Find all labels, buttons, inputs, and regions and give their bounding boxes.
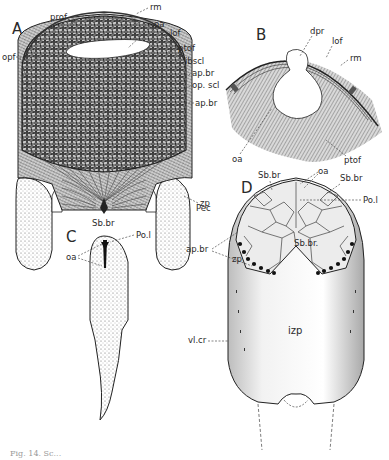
panel-letter-c: C <box>66 228 76 246</box>
label-vl-cr: vl.cr <box>188 335 207 345</box>
oral-cavity-b <box>273 49 322 118</box>
label-po-l-c: Po.l <box>136 230 151 240</box>
label-prof: prof <box>50 12 68 22</box>
label-dpr: dpr <box>310 26 325 36</box>
panel-c: C Po.l oa <box>66 228 151 420</box>
label-rm-a: rm <box>150 2 162 12</box>
pectoral-fin-left <box>16 178 52 270</box>
label-ap-br-d: ap.br <box>186 244 209 254</box>
label-sb-br-right-d: Sb.br <box>340 173 363 183</box>
panel-letter-d: D <box>241 179 253 197</box>
label-ap-br-1: ap.br <box>192 68 215 78</box>
head-shield-a <box>22 16 186 172</box>
label-zp-d: zp <box>232 254 242 264</box>
label-sb-br-center-d: Sb.br. <box>294 238 318 248</box>
panel-letter-b: B <box>256 26 266 44</box>
label-lof-a: lof <box>170 28 182 38</box>
panel-b: B dpr lof rm oa ptof <box>226 26 382 165</box>
label-oa-d: oa <box>318 166 328 176</box>
label-opf: opf <box>2 52 17 62</box>
panel-a: A prof rm oa lof ptof ibscl ap.br op. sc… <box>2 2 219 270</box>
label-sb-br-left-d: Sb.br <box>258 170 281 180</box>
label-po-l-d: Po.l <box>363 195 378 205</box>
label-pec: Pec <box>196 203 211 213</box>
label-rm-b: rm <box>350 53 362 63</box>
label-ptof-a: ptof <box>178 43 196 53</box>
pectoral-fin-right <box>156 178 190 270</box>
label-op-scl: op. scl <box>192 80 219 90</box>
label-lof-b: lof <box>332 36 344 46</box>
panel-d: D Sb.br oa Sb.br Po.l Sb.br. ap.br zp iz… <box>186 166 378 450</box>
figure-caption: Fig. 14. Sc... <box>10 449 61 458</box>
label-ptof-b: ptof <box>344 155 362 165</box>
label-ibscl: ibscl <box>185 56 204 66</box>
label-oa-c: oa <box>66 252 76 262</box>
label-sb-br-a: Sb.br <box>92 218 115 228</box>
panel-letter-a: A <box>12 20 23 38</box>
label-oa-a: oa <box>154 19 164 29</box>
figure-illustration: A prof rm oa lof ptof ibscl ap.br op. sc… <box>0 0 389 460</box>
label-izp: izp <box>288 325 302 336</box>
label-ap-br-2: ap.br <box>195 98 218 108</box>
label-oa-b: oa <box>232 154 242 164</box>
